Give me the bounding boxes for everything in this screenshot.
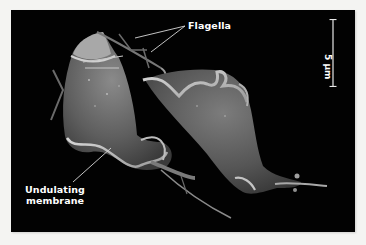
flagella-leader-lines [135, 26, 185, 52]
scale-bar-label: 5 µm [323, 54, 333, 79]
undulating-membrane-label-line2: membrane [20, 195, 90, 206]
flagella-label: Flagella [188, 20, 231, 31]
undulating-membrane-label-line1: Undulating [20, 184, 90, 195]
micrograph-figure: Flagella Undulating membrane 5 µm [11, 10, 355, 232]
undulating-membrane-leader-line [73, 148, 111, 182]
undulating-membrane-label: Undulating membrane [20, 184, 90, 206]
